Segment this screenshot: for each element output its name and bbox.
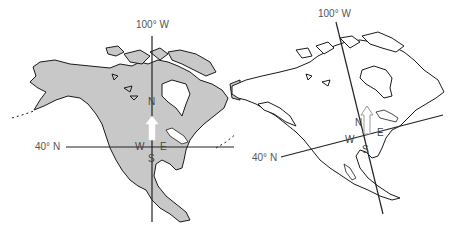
right-compass-w: W bbox=[345, 134, 354, 145]
maps-svg bbox=[0, 0, 456, 234]
right-map bbox=[232, 22, 444, 214]
left-map bbox=[12, 36, 240, 222]
right-parallel-label: 40° N bbox=[252, 152, 277, 163]
map-comparison-diagram: 100° W 40° N N S W E 100° W 40° N N S W … bbox=[0, 0, 456, 234]
left-parallel-label: 40° N bbox=[35, 141, 60, 152]
left-compass-e: E bbox=[160, 141, 167, 152]
left-compass-s: S bbox=[148, 153, 155, 164]
right-compass-e: E bbox=[377, 127, 384, 138]
left-iceland-dots bbox=[216, 134, 236, 148]
left-compass-w: W bbox=[135, 141, 144, 152]
right-landmass bbox=[232, 40, 444, 200]
right-compass-s: S bbox=[362, 144, 369, 155]
left-aleutians bbox=[12, 111, 34, 118]
left-meridian-label: 100° W bbox=[136, 19, 169, 30]
right-compass-n: N bbox=[355, 117, 362, 128]
right-meridian-label: 100° W bbox=[318, 8, 351, 19]
left-compass-n: N bbox=[148, 96, 155, 107]
